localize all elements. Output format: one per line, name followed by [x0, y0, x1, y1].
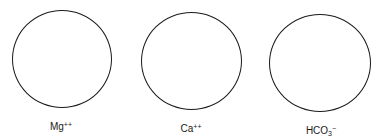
ca-ion-label: Ca++	[181, 123, 202, 135]
hco3-ion-circle	[269, 14, 371, 112]
ca-ion-circle	[141, 12, 242, 110]
ca-ion-charge: ++	[193, 123, 201, 130]
mg-ion-charge: ++	[64, 121, 72, 128]
hco3-ion-label: HCO3−	[306, 125, 336, 137]
hco3-ion-charge: −	[332, 125, 336, 132]
mg-ion-symbol: Mg	[50, 121, 64, 132]
mg-ion-circle	[12, 10, 112, 108]
hco3-ion-symbol: HCO	[306, 125, 328, 136]
mg-ion-label: Mg++	[50, 121, 72, 133]
ca-ion-symbol: Ca	[181, 123, 194, 134]
